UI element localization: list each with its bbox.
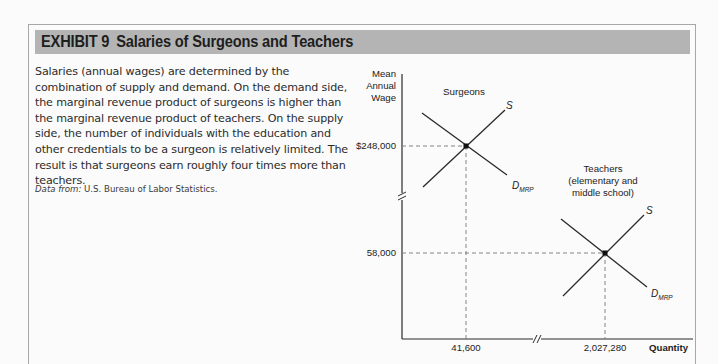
teachers-panel-label-line3: middle school) (572, 187, 634, 198)
surgeons-quantity-tick-label: 41,600 (451, 342, 480, 353)
teachers-panel-label-line1: Teachers (584, 163, 623, 174)
teachers-supply-label: S (646, 205, 653, 216)
y-axis-label-line3: Wage (371, 92, 396, 103)
teachers-wage-tick-label: 58,000 (367, 247, 396, 258)
x-axis-label: Quantity (649, 342, 689, 353)
teachers-quantity-tick-label: 2,027,280 (584, 342, 627, 353)
teachers-equilibrium-point (603, 251, 608, 256)
surgeons-equilibrium-point (464, 144, 469, 149)
y-axis-label-line1: Mean (372, 68, 396, 79)
y-axis-label-line2: Annual (366, 80, 396, 91)
surgeons-panel-label: Surgeons (443, 86, 485, 97)
teachers-demand-label: DMRP (651, 288, 673, 301)
x-axis-break-icon (533, 335, 541, 343)
surgeons-supply-label: S (506, 100, 513, 111)
y-axis-break-icon (398, 192, 406, 200)
surgeons-demand-label: DMRP (512, 180, 534, 193)
surgeons-wage-tick-label: $248,000 (356, 140, 396, 151)
teachers-panel-label-line2: (elementary and (568, 175, 637, 186)
